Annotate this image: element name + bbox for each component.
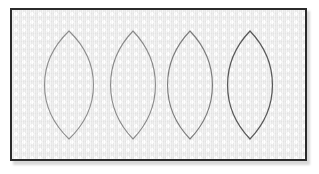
lens-shape-1: [45, 31, 94, 139]
lens-shapes-svg: [12, 10, 305, 159]
screenshot-canvas: [0, 0, 319, 174]
lens-shapes-layer: [12, 10, 305, 159]
panel-frame: [10, 8, 307, 161]
lens-shape-4: [228, 31, 273, 139]
lens-group: [45, 31, 273, 139]
lens-shape-3: [168, 31, 213, 139]
lens-shape-2: [111, 31, 156, 139]
